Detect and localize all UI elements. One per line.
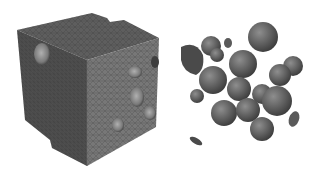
figure bbox=[0, 0, 321, 175]
sphere bbox=[199, 66, 227, 94]
extracted-spheres bbox=[181, 22, 303, 147]
sphere bbox=[262, 86, 292, 116]
sphere bbox=[210, 48, 224, 62]
sphere bbox=[227, 77, 251, 101]
inclusion-hole bbox=[151, 56, 159, 68]
inclusion-hole bbox=[128, 66, 142, 78]
inclusion-hole bbox=[130, 87, 144, 107]
sphere bbox=[229, 50, 257, 78]
meshed-cube bbox=[17, 13, 159, 166]
inclusion-hole bbox=[34, 43, 50, 65]
sphere-fragment bbox=[188, 135, 203, 147]
sphere bbox=[248, 22, 278, 52]
sphere bbox=[211, 100, 237, 126]
sphere bbox=[250, 117, 274, 141]
inclusion-hole bbox=[112, 118, 124, 132]
inclusion-hole bbox=[144, 106, 156, 120]
sphere-fragment bbox=[224, 38, 232, 48]
sphere bbox=[190, 89, 204, 103]
sphere-fragment bbox=[287, 110, 302, 128]
sphere bbox=[269, 64, 291, 86]
sphere-fragment bbox=[181, 45, 203, 75]
